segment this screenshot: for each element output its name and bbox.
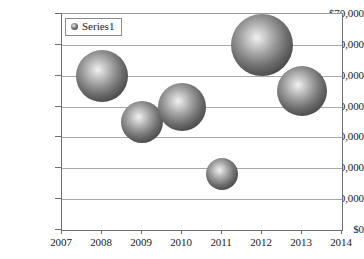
x-axis-tick-label: 2009 xyxy=(119,236,163,248)
bubble-chart: $0$10,000$20,000$30,000$40,000$50,000$60… xyxy=(0,0,364,259)
gridline xyxy=(62,199,342,200)
bubble-marker-icon xyxy=(71,23,78,30)
x-axis-tick-label: 2011 xyxy=(199,236,243,248)
bubble-data-point[interactable] xyxy=(121,101,163,143)
bubble-data-point[interactable] xyxy=(158,83,206,131)
x-axis-tick-label: 2008 xyxy=(79,236,123,248)
gridline xyxy=(62,45,342,46)
legend-entry-label: Series1 xyxy=(82,21,114,32)
bubble-data-point[interactable] xyxy=(206,158,238,190)
gridline xyxy=(62,137,342,138)
bubble-data-point[interactable] xyxy=(277,66,327,116)
plot-area xyxy=(61,13,343,231)
chart-legend[interactable]: Series1 xyxy=(65,18,122,36)
bubble-data-point[interactable] xyxy=(231,14,293,76)
bubble-data-point[interactable] xyxy=(76,50,128,102)
x-axis-tick-label: 2012 xyxy=(239,236,283,248)
x-axis-tick-label: 2007 xyxy=(39,236,83,248)
x-axis-tick-label: 2013 xyxy=(279,236,323,248)
x-axis-tick-label: 2014 xyxy=(319,236,363,248)
x-axis-tick-label: 2010 xyxy=(159,236,203,248)
gridline xyxy=(62,168,342,169)
